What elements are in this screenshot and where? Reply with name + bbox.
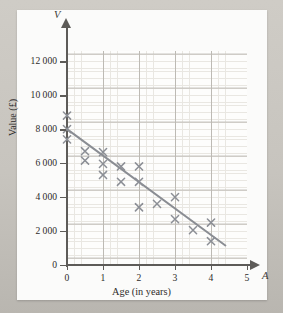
- y-axis-symbol: V: [54, 9, 60, 20]
- y-tick-mark: [60, 231, 66, 232]
- y-tick-label: 12 000: [31, 55, 57, 66]
- y-tick-mark: [60, 265, 66, 266]
- x-tick-mark: [211, 264, 212, 270]
- y-tick-label: 0: [52, 259, 57, 270]
- y-axis-arrow-icon: [61, 18, 71, 28]
- major-gridlines: [67, 51, 247, 265]
- x-tick-mark: [67, 264, 68, 270]
- y-tick-label: 6 000: [35, 157, 57, 168]
- x-axis-line: [66, 264, 252, 266]
- grid: [67, 51, 247, 265]
- y-tick-label: 2 000: [35, 225, 57, 236]
- y-tick-mark: [60, 95, 66, 96]
- y-tick-mark: [60, 197, 66, 198]
- x-tick-label: 0: [57, 272, 77, 283]
- x-tick-label: 2: [129, 272, 149, 283]
- x-tick-label: 5: [237, 272, 257, 283]
- y-tick-mark: [60, 61, 66, 62]
- plot-area: [67, 51, 247, 265]
- x-tick-mark: [103, 264, 104, 270]
- y-tick-mark: [60, 129, 66, 130]
- x-tick-mark: [139, 264, 140, 270]
- x-tick-label: 4: [201, 272, 221, 283]
- x-tick-mark: [247, 264, 248, 270]
- y-tick-label: 4 000: [35, 191, 57, 202]
- x-axis-arrow-icon: [250, 260, 260, 270]
- x-axis-symbol: A: [262, 270, 268, 281]
- y-tick-label: 8 000: [35, 123, 57, 134]
- y-axis-title: Value (£): [7, 99, 18, 136]
- y-tick-mark: [60, 163, 66, 164]
- x-tick-mark: [175, 264, 176, 270]
- scatter-plot-figure: V A Value (£) Age (in years) 02 0004 000…: [0, 0, 283, 313]
- x-tick-label: 3: [165, 272, 185, 283]
- x-tick-label: 1: [93, 272, 113, 283]
- y-tick-label: 10 000: [31, 89, 57, 100]
- x-axis-title: Age (in years): [0, 286, 283, 297]
